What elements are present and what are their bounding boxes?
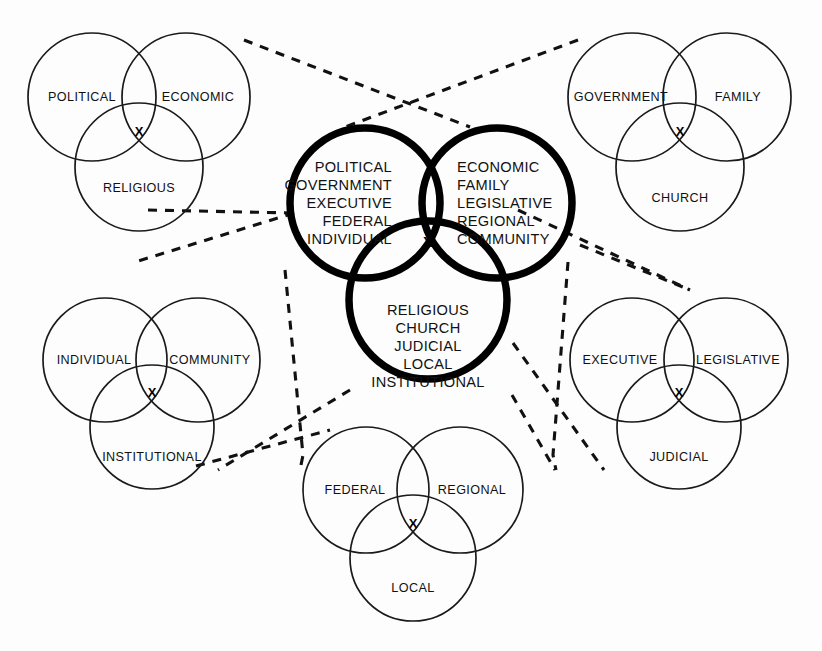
central-right-line-1: ECONOMIC	[457, 159, 540, 175]
satellite-bottom-left[interactable]: INDIVIDUAL COMMUNITY INSTITUTIONAL X	[43, 298, 260, 489]
central-bottom-line-3: JUDICIAL	[394, 338, 461, 354]
satellite-bottom-right[interactable]: EXECUTIVE LEGISLATIVE JUDICIAL X	[570, 298, 788, 489]
circle-church	[616, 103, 744, 231]
connector-topleft-to-center	[244, 40, 470, 127]
central-left-line-1: POLITICAL	[315, 159, 392, 175]
intersection-marker-top-right: X	[676, 124, 685, 139]
venn-diagram-svg: POLITICAL ECONOMIC RELIGIOUS X GOVERNMEN…	[0, 0, 822, 651]
label-government: GOVERNMENT	[574, 90, 668, 104]
circle-local	[350, 495, 476, 621]
circle-institutional	[90, 365, 214, 489]
label-local: LOCAL	[391, 581, 434, 595]
label-economic: ECONOMIC	[162, 90, 234, 104]
central-left-line-4: FEDERAL	[323, 213, 392, 229]
connector-center-to-bottomcenter-right	[553, 262, 568, 470]
intersection-marker-central: X	[423, 233, 433, 250]
central-bottom-line-1: RELIGIOUS	[387, 302, 469, 318]
intersection-marker-bottom-left: X	[148, 385, 157, 400]
connector-centerbottom-to-bottomleft	[218, 390, 350, 470]
central-left-line-2: GOVERNMENT	[284, 177, 392, 193]
central-bottom-line-4: LOCAL	[403, 356, 452, 372]
central-bottom-line-2: CHURCH	[395, 320, 460, 336]
label-judicial: JUDICIAL	[649, 450, 708, 464]
satellite-bottom-center[interactable]: FEDERAL REGIONAL LOCAL X	[303, 427, 523, 621]
connector-group	[135, 40, 690, 470]
label-individual: INDIVIDUAL	[57, 353, 132, 367]
connector-centerbottom-to-bottomcenter-right	[512, 395, 555, 470]
label-church: CHURCH	[652, 191, 709, 205]
label-legislative: LEGISLATIVE	[696, 353, 780, 367]
central-left-line-3: EXECUTIVE	[307, 195, 392, 211]
connector-center-to-bottomleft	[135, 213, 294, 262]
label-political: POLITICAL	[48, 90, 116, 104]
label-community: COMMUNITY	[169, 353, 250, 367]
central-venn[interactable]: POLITICAL GOVERNMENT EXECUTIVE FEDERAL I…	[284, 128, 572, 390]
central-right-line-5: COMMUNITY	[457, 231, 550, 247]
label-religious: RELIGIOUS	[103, 181, 175, 195]
central-bottom-line-5: INSTITUTIONAL	[371, 374, 484, 390]
intersection-marker-bottom-right: X	[675, 385, 684, 400]
intersection-marker-bottom-center: X	[409, 516, 418, 531]
connector-topleft-lower-to-center	[148, 210, 294, 213]
central-right-line-4: REGIONAL	[457, 213, 535, 229]
connector-center-to-bottomcenter-left	[285, 270, 303, 470]
label-regional: REGIONAL	[438, 483, 506, 497]
satellite-top-left[interactable]: POLITICAL ECONOMIC RELIGIOUS X	[28, 33, 250, 231]
satellite-top-right[interactable]: GOVERNMENT FAMILY CHURCH X	[568, 33, 791, 231]
label-family: FAMILY	[715, 90, 761, 104]
central-right-text: ECONOMIC FAMILY LEGISLATIVE REGIONAL COM…	[457, 159, 553, 247]
intersection-marker-top-left: X	[135, 124, 144, 139]
label-federal: FEDERAL	[325, 483, 386, 497]
circle-religious	[75, 103, 203, 231]
connector-topright-to-center	[345, 40, 578, 127]
label-institutional: INSTITUTIONAL	[102, 450, 202, 464]
central-bottom-text: RELIGIOUS CHURCH JUDICIAL LOCAL INSTITUT…	[371, 302, 484, 390]
label-executive: EXECUTIVE	[583, 353, 658, 367]
connector-center-to-bottomright	[518, 210, 690, 290]
venn-diagram-canvas: POLITICAL ECONOMIC RELIGIOUS X GOVERNMEN…	[0, 0, 822, 651]
circle-judicial	[617, 365, 741, 489]
central-right-line-2: FAMILY	[457, 177, 510, 193]
central-right-line-3: LEGISLATIVE	[457, 195, 553, 211]
central-left-line-5: INDIVIDUAL	[307, 231, 392, 247]
